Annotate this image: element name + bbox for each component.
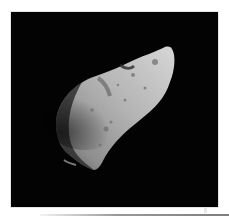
bottom-rule <box>40 214 229 216</box>
photo-frame <box>11 12 218 207</box>
asteroid-photo <box>11 12 218 207</box>
corner-mark <box>204 208 207 213</box>
